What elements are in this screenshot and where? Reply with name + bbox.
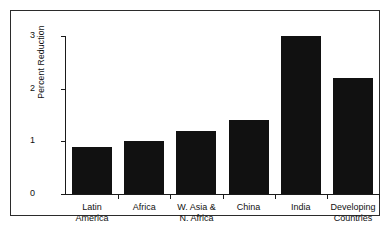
x-tick-label-line: W. Asia & [170,202,222,213]
y-tick-mark [61,194,66,195]
chart-figure: Percent Reduction 0123 LatinAmericaAfric… [0,0,392,237]
y-tick-label: 1 [21,136,35,145]
x-tick-mark [275,195,276,199]
bars-layer [66,36,379,194]
x-tick-label-line: America [66,213,118,224]
x-tick-label-line: Latin [66,202,118,213]
x-tick-mark [379,195,380,199]
x-tick-label: India [275,202,327,213]
x-tick-label: W. Asia &N. Africa [170,202,222,223]
y-tick-label: 2 [21,84,35,93]
x-tick-label: China [223,202,275,213]
bar [176,131,216,194]
x-tick-label-line: Africa [118,202,170,213]
x-tick-label-line: Countries [327,213,379,224]
y-tick-label: 0 [21,189,35,198]
x-tick-mark [118,195,119,199]
x-tick-mark [223,195,224,199]
x-tick-label: LatinAmerica [66,202,118,223]
x-tick-mark [170,195,171,199]
figure-frame: Percent Reduction 0123 LatinAmericaAfric… [10,10,380,216]
x-tick-mark [327,195,328,199]
x-tick-label-line: China [223,202,275,213]
x-tick-label: Africa [118,202,170,213]
bar [124,141,164,194]
bar [281,36,321,194]
bar [333,78,373,194]
x-tick-label-line: Developing [327,202,379,213]
y-tick-label: 3 [21,31,35,40]
x-tick-label-line: N. Africa [170,213,222,224]
bar [72,147,112,194]
x-tick-label-line: India [275,202,327,213]
bar [229,120,269,194]
y-axis-title: Percent Reduction [36,2,46,122]
x-tick-label: DevelopingCountries [327,202,379,223]
